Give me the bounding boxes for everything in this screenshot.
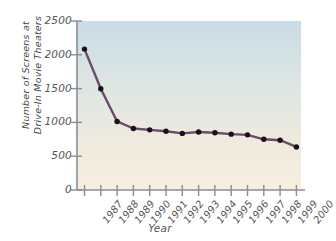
- x-axis-title: Year: [0, 222, 320, 234]
